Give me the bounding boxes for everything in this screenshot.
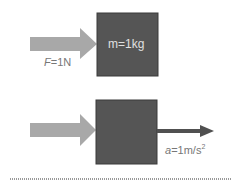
acceleration-arrow-shaft — [157, 129, 201, 133]
force-arrow-bottom — [30, 114, 96, 146]
dotted-divider — [10, 178, 232, 180]
force-arrow-top — [30, 28, 97, 59]
force-label: F=1N — [44, 56, 71, 68]
mass-block-bottom — [96, 100, 157, 164]
acceleration-label: a=1m/s2 — [165, 143, 205, 156]
acceleration-arrow-head — [200, 125, 214, 137]
mass-label: m=1kg — [108, 37, 144, 51]
